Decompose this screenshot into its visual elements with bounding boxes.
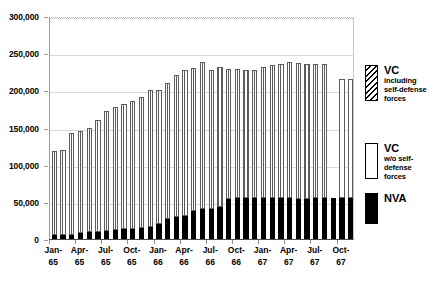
bars-layer [50,18,353,239]
bar-segment-vc-incl [191,68,196,211]
bar-segment-vc-incl [313,64,318,198]
bar-segment-nva [304,199,309,239]
x-axis-tick-label: Jan-65 [45,245,62,268]
legend-subtitle-line: forces [384,172,447,181]
y-axis-tick-mark [44,129,48,130]
bar-segment-vc-incl [165,83,170,219]
bar-group [104,16,109,239]
bar-segment-nva [69,235,74,239]
plot-area [49,17,354,240]
y-axis-tick-label: 250,000 [9,50,39,59]
y-axis-tick-label: 50,000 [14,199,39,208]
bar-segment-nva [104,231,109,239]
legend-title: NVA [384,192,447,204]
bar-segment-vc-incl [235,69,240,198]
x-label-month: Jan- [254,245,271,257]
bar-segment-vc-incl [95,120,100,232]
bar-group [278,16,283,239]
legend-text: VCincludingself-defenseforces [384,64,447,103]
bar-segment-vc-incl [278,64,283,199]
legend-subtitle-line: including [384,76,447,85]
bar-segment-nva [60,235,65,239]
y-axis: 050,000100,000150,000200,000250,000300,0… [0,0,44,281]
bar-segment-vc-incl [139,97,144,228]
x-axis-tick-mark [180,240,181,244]
x-label-month: Apr- [71,245,88,257]
x-label-year: 66 [203,257,218,269]
x-axis-tick-label: Jul-66 [203,245,218,268]
bar-segment-vc-wo [339,79,344,198]
x-label-month: Jan- [149,245,166,257]
legend-subtitle-line: self-defense [384,85,447,94]
x-axis-tick-mark [310,240,311,244]
legend-swatch-white [365,143,378,179]
bar-group [182,16,187,239]
x-axis-tick-label: Apr-67 [280,245,297,268]
x-label-year: 66 [149,257,166,269]
bar-segment-nva [313,198,318,239]
x-label-year: 67 [332,257,349,269]
bar-group [217,16,222,239]
bar-group [226,16,231,239]
bar-segment-nva [130,229,135,239]
bar-group [252,16,257,239]
x-axis-tick-label: Oct-67 [332,245,349,268]
bar-segment-vc-incl [261,67,266,198]
x-axis-tick-mark [284,240,285,244]
x-axis-tick-mark [206,240,207,244]
bar-segment-vc-incl [287,62,292,198]
bar-segment-nva [165,219,170,239]
chart-legend: VCincludingself-defenseforcesVCw/o self-… [362,18,447,238]
x-label-year: 65 [71,257,88,269]
legend-subtitle-line: w/o self- [384,154,447,163]
y-axis-tick-mark [44,166,48,167]
bar-segment-vc-wo [348,79,353,198]
bar-group [209,16,214,239]
bar-group [148,16,153,239]
bar-segment-nva [78,233,83,239]
bar-segment-nva [287,198,292,239]
x-label-month: Apr- [175,245,192,257]
bar-segment-vc-incl [113,107,118,230]
bar-group [113,16,118,239]
bar-segment-vc-incl [156,90,161,225]
x-axis-tick-label: Jan-66 [149,245,166,268]
bar-segment-vc-incl [217,67,222,207]
x-axis-tick-label: Oct-66 [228,245,245,268]
bar-segment-nva [87,232,92,239]
x-label-month: Oct- [332,245,349,257]
bar-segment-nva [191,211,196,239]
bar-segment-vc-incl [78,131,83,233]
x-label-year: 66 [228,257,245,269]
bar-segment-nva [139,228,144,239]
x-label-year: 66 [175,257,192,269]
x-label-year: 67 [280,257,297,269]
bar-segment-nva [296,199,301,239]
x-axis-tick-label: Jul-65 [98,245,113,268]
bar-segment-nva [270,198,275,239]
bar-segment-nva [331,198,336,239]
legend-subtitle-line: forces [384,94,447,103]
bar-segment-vc-incl [104,111,109,231]
x-label-month: Apr- [280,245,297,257]
y-axis-tick-mark [44,17,48,18]
bar-segment-vc-incl [200,62,205,209]
bar-group [296,16,301,239]
bar-segment-vc-incl [148,90,153,227]
bar-segment-nva [252,198,257,239]
bar-segment-vc-incl [209,70,214,208]
legend-swatch-black [365,193,378,224]
bar-group [95,16,100,239]
x-label-month: Jul- [307,245,322,257]
bar-segment-vc-incl [243,70,248,198]
x-label-month: Oct- [123,245,140,257]
x-label-month: Jul- [203,245,218,257]
x-label-month: Oct- [228,245,245,257]
y-axis-tick-mark [44,203,48,204]
bar-group [200,16,205,239]
bar-group [322,16,327,239]
bar-group [313,16,318,239]
bar-group [331,16,336,239]
bar-segment-vc-incl [130,101,135,229]
bar-group [52,16,57,239]
